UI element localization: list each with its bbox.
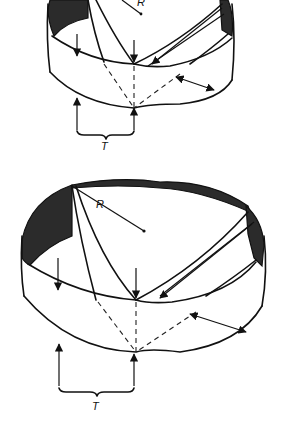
top-radius-label: R <box>137 0 145 8</box>
diagram-canvas: R T R <box>0 0 285 428</box>
top-right-shaded-region <box>220 0 233 36</box>
bottom-cylinder-diagram: R T <box>21 180 265 412</box>
bottom-width-label: T <box>92 400 100 412</box>
bottom-left-shaded-region <box>22 185 72 265</box>
bottom-right-shaded-region <box>246 206 264 266</box>
top-cylinder-diagram: R T <box>47 0 234 152</box>
top-left-shaded-region <box>48 0 88 36</box>
bottom-radius-label: R <box>96 198 104 210</box>
top-width-label: T <box>101 140 109 152</box>
